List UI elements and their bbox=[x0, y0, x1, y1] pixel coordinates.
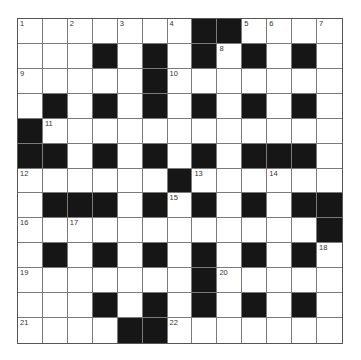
grid-cell[interactable] bbox=[217, 318, 242, 343]
grid-cell[interactable]: 8 bbox=[217, 44, 242, 69]
grid-cell[interactable] bbox=[292, 69, 317, 94]
grid-cell[interactable]: 16 bbox=[18, 218, 43, 243]
grid-cell[interactable] bbox=[143, 218, 168, 243]
grid-cell[interactable] bbox=[18, 243, 43, 268]
grid-cell[interactable] bbox=[267, 293, 292, 318]
grid-cell[interactable]: 13 bbox=[192, 169, 217, 194]
grid-cell[interactable]: 14 bbox=[267, 169, 292, 194]
grid-cell[interactable] bbox=[118, 119, 143, 144]
grid-cell[interactable] bbox=[267, 218, 292, 243]
grid-cell[interactable] bbox=[168, 44, 193, 69]
grid-cell[interactable] bbox=[267, 318, 292, 343]
grid-cell[interactable] bbox=[118, 94, 143, 119]
grid-cell[interactable]: 1 bbox=[18, 19, 43, 44]
grid-cell[interactable] bbox=[168, 94, 193, 119]
grid-cell[interactable] bbox=[118, 293, 143, 318]
grid-cell[interactable]: 5 bbox=[242, 19, 267, 44]
grid-cell[interactable] bbox=[192, 69, 217, 94]
grid-cell[interactable] bbox=[292, 19, 317, 44]
grid-cell[interactable] bbox=[267, 94, 292, 119]
grid-cell[interactable] bbox=[168, 144, 193, 169]
grid-cell[interactable] bbox=[217, 218, 242, 243]
grid-cell[interactable] bbox=[93, 19, 118, 44]
grid-cell[interactable] bbox=[93, 69, 118, 94]
grid-cell[interactable] bbox=[143, 268, 168, 293]
grid-cell[interactable] bbox=[317, 44, 342, 69]
grid-cell[interactable] bbox=[217, 119, 242, 144]
grid-cell[interactable]: 7 bbox=[317, 19, 342, 44]
grid-cell[interactable] bbox=[43, 268, 68, 293]
grid-cell[interactable] bbox=[118, 268, 143, 293]
grid-cell[interactable] bbox=[68, 268, 93, 293]
grid-cell[interactable] bbox=[68, 94, 93, 119]
grid-cell[interactable] bbox=[93, 169, 118, 194]
grid-cell[interactable] bbox=[168, 293, 193, 318]
grid-cell[interactable] bbox=[43, 293, 68, 318]
grid-cell[interactable] bbox=[242, 69, 267, 94]
grid-cell[interactable] bbox=[192, 218, 217, 243]
grid-cell[interactable] bbox=[168, 268, 193, 293]
grid-cell[interactable] bbox=[68, 144, 93, 169]
grid-cell[interactable] bbox=[267, 243, 292, 268]
grid-cell[interactable] bbox=[317, 318, 342, 343]
grid-cell[interactable] bbox=[317, 94, 342, 119]
grid-cell[interactable] bbox=[68, 119, 93, 144]
grid-cell[interactable] bbox=[18, 193, 43, 218]
grid-cell[interactable] bbox=[292, 119, 317, 144]
grid-cell[interactable]: 21 bbox=[18, 318, 43, 343]
grid-cell[interactable] bbox=[43, 69, 68, 94]
grid-cell[interactable] bbox=[118, 144, 143, 169]
grid-cell[interactable] bbox=[267, 193, 292, 218]
grid-cell[interactable] bbox=[118, 44, 143, 69]
grid-cell[interactable] bbox=[93, 268, 118, 293]
grid-cell[interactable] bbox=[242, 318, 267, 343]
grid-cell[interactable] bbox=[217, 243, 242, 268]
grid-cell[interactable] bbox=[168, 243, 193, 268]
grid-cell[interactable] bbox=[292, 218, 317, 243]
grid-cell[interactable] bbox=[93, 318, 118, 343]
grid-cell[interactable] bbox=[267, 268, 292, 293]
grid-cell[interactable] bbox=[292, 318, 317, 343]
grid-cell[interactable] bbox=[217, 293, 242, 318]
grid-cell[interactable]: 4 bbox=[168, 19, 193, 44]
grid-cell[interactable] bbox=[118, 243, 143, 268]
grid-cell[interactable] bbox=[217, 193, 242, 218]
grid-cell[interactable] bbox=[118, 193, 143, 218]
grid-cell[interactable]: 3 bbox=[118, 19, 143, 44]
grid-cell[interactable] bbox=[68, 169, 93, 194]
grid-cell[interactable]: 2 bbox=[68, 19, 93, 44]
grid-cell[interactable] bbox=[217, 169, 242, 194]
grid-cell[interactable] bbox=[143, 19, 168, 44]
grid-cell[interactable] bbox=[267, 69, 292, 94]
grid-cell[interactable]: 19 bbox=[18, 268, 43, 293]
grid-cell[interactable] bbox=[118, 218, 143, 243]
grid-cell[interactable]: 11 bbox=[43, 119, 68, 144]
grid-cell[interactable]: 17 bbox=[68, 218, 93, 243]
grid-cell[interactable]: 12 bbox=[18, 169, 43, 194]
grid-cell[interactable] bbox=[168, 119, 193, 144]
grid-cell[interactable] bbox=[68, 243, 93, 268]
grid-cell[interactable]: 18 bbox=[317, 243, 342, 268]
grid-cell[interactable] bbox=[292, 169, 317, 194]
grid-cell[interactable] bbox=[43, 44, 68, 69]
grid-cell[interactable] bbox=[18, 293, 43, 318]
grid-cell[interactable] bbox=[317, 293, 342, 318]
grid-cell[interactable] bbox=[143, 119, 168, 144]
grid-cell[interactable] bbox=[242, 169, 267, 194]
grid-cell[interactable] bbox=[118, 169, 143, 194]
grid-cell[interactable] bbox=[242, 119, 267, 144]
grid-cell[interactable]: 22 bbox=[168, 318, 193, 343]
grid-cell[interactable] bbox=[292, 268, 317, 293]
grid-cell[interactable] bbox=[192, 119, 217, 144]
grid-cell[interactable] bbox=[93, 218, 118, 243]
grid-cell[interactable] bbox=[317, 69, 342, 94]
grid-cell[interactable] bbox=[43, 318, 68, 343]
grid-cell[interactable] bbox=[317, 144, 342, 169]
grid-cell[interactable] bbox=[217, 69, 242, 94]
grid-cell[interactable] bbox=[242, 218, 267, 243]
grid-cell[interactable] bbox=[43, 218, 68, 243]
grid-cell[interactable] bbox=[118, 69, 143, 94]
grid-cell[interactable] bbox=[267, 44, 292, 69]
grid-cell[interactable] bbox=[192, 318, 217, 343]
grid-cell[interactable] bbox=[317, 169, 342, 194]
